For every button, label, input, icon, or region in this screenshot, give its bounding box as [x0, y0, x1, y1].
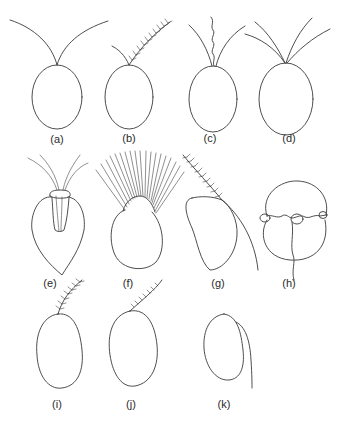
label-i: (i): [52, 398, 62, 410]
cell-i: [37, 279, 84, 388]
label-j: (j): [126, 398, 136, 410]
label-g: (g): [211, 277, 224, 289]
cell-e: [28, 155, 88, 275]
diagram-drawing: [0, 0, 340, 421]
label-e: (e): [43, 277, 56, 289]
cell-j: [109, 280, 162, 386]
label-b: (b): [122, 132, 135, 144]
cell-f: [96, 151, 184, 269]
label-f: (f): [123, 277, 133, 289]
cell-b: [105, 19, 172, 129]
cell-a: [10, 20, 108, 129]
cell-g: [183, 154, 258, 270]
flagella-types-diagram: (a) (b) (c) (d) (e) (f) (g) (h) (i) (j) …: [0, 0, 340, 421]
label-a: (a): [50, 133, 63, 145]
label-k: (k): [218, 398, 231, 410]
cell-c: [189, 17, 245, 132]
cell-k: [204, 314, 252, 388]
label-h: (h): [282, 277, 295, 289]
cell-d: [245, 18, 330, 135]
label-c: (c): [204, 132, 217, 144]
cell-h: [260, 181, 327, 280]
label-d: (d): [282, 132, 295, 144]
